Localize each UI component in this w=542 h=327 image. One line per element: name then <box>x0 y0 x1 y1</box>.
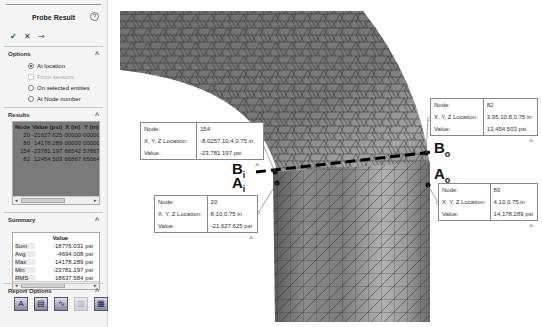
radio-selected-icon <box>28 63 34 69</box>
graphics-viewport[interactable]: Bi Ai Bo Ao Node:154 X, Y, Z Location:-8… <box>108 0 542 327</box>
plot-icon[interactable]: ∿ <box>54 297 68 311</box>
report-options-toolbar: A ▤ ∿ ▥ ▦ <box>14 297 108 311</box>
column-header[interactable]: X (in) <box>64 124 81 130</box>
table-row[interactable]: 80 14178.289 00000 00000 <box>15 140 100 146</box>
save-to-file-icon[interactable]: ▤ <box>34 297 48 311</box>
ok-check-icon[interactable]: ✔ <box>10 32 17 41</box>
table-row: Min -23781.197 psi <box>15 267 97 273</box>
callout-location: 3.95,10.8,0.75 in <box>483 111 537 123</box>
table-row[interactable]: 82 12454.503 66867 65064 <box>15 156 100 162</box>
callout-node: 154 <box>197 123 264 135</box>
cell-x: 00000 <box>64 140 81 146</box>
report-options-section-header[interactable]: Report Options ^ <box>8 288 101 294</box>
cell-y: 65064 <box>83 156 100 162</box>
cell-value: -23781.197 <box>32 148 62 154</box>
table-row[interactable]: 20 -21627.625 00000 00000 <box>15 132 100 138</box>
collapse-caret-icon[interactable]: ^ <box>249 234 253 243</box>
divider <box>4 107 103 108</box>
summary-label: Max <box>15 259 35 265</box>
probe-callout-node-82[interactable]: Node:82 X, Y, Z Location:3.95,10.8,0.75 … <box>430 98 538 136</box>
point-label-a-inner: Ai <box>232 174 245 194</box>
options-section-header[interactable]: Options ^ <box>8 51 101 57</box>
callout-node: 20 <box>207 196 257 208</box>
callout-key: Node: <box>431 99 483 111</box>
column-header: Value <box>37 235 83 241</box>
cell-x: 66542 <box>64 148 81 154</box>
callout-key: X, Y, Z Location: <box>141 135 197 147</box>
summary-unit: psi <box>85 259 97 265</box>
report-options-header-label: Report Options <box>8 288 52 294</box>
column-header[interactable]: Node <box>15 124 30 130</box>
results-horizontal-scrollbar[interactable]: ◂ ▸ <box>13 196 99 204</box>
panel-top-divider <box>6 4 101 5</box>
results-table[interactable]: Node Value (psi) X (in) Y (in) 20 -21627… <box>12 121 100 205</box>
cell-node: 80 <box>15 140 30 146</box>
summary-table[interactable]: Value Sum -18776.031 psi Avg -4694.008 p… <box>12 232 100 290</box>
results-section-header[interactable]: Results ^ <box>8 112 101 118</box>
callout-location: -8.0257,10.4,0.75 in <box>197 135 264 147</box>
point-label-a-outer: Ao <box>434 165 450 185</box>
save-as-sensor-icon[interactable]: A <box>14 297 28 311</box>
results-header-label: Results <box>8 112 30 118</box>
point-label-b-outer: Bo <box>434 139 450 159</box>
callout-value: 14,178.289 psi <box>490 208 537 220</box>
probe-result-panel: Probe Result ? ✔ ✕ ⊸ Options ^ At locati… <box>0 0 108 327</box>
callout-node: 82 <box>483 99 537 111</box>
radio-at-location[interactable]: At location <box>28 63 65 69</box>
callout-key: Node: <box>155 196 207 208</box>
callout-key: Node: <box>439 184 490 196</box>
cell-node: 20 <box>15 132 30 138</box>
summary-unit: psi <box>85 267 97 273</box>
probe-callout-node-20[interactable]: Node:20 X, Y, Z Location:8,10,0.75 in Va… <box>154 195 258 233</box>
checkbox-disabled-icon <box>28 74 34 80</box>
probe-callout-node-154[interactable]: Node:154 X, Y, Z Location:-8.0257,10.4,0… <box>140 122 264 160</box>
callout-value: -23,781.197 psi <box>197 147 264 159</box>
radio-label: From sensors <box>37 74 74 80</box>
radio-label: On selected entities <box>37 85 90 91</box>
callout-value: -21,627.625 psi <box>207 220 257 232</box>
cell-x: 66867 <box>64 156 81 162</box>
fea-mesh-model <box>108 0 542 327</box>
summary-value: -23781.197 <box>37 267 83 273</box>
radio-on-selected-entities[interactable]: On selected entities <box>28 85 90 91</box>
table-row[interactable]: 154 -23781.197 66542 57867 <box>15 148 100 154</box>
callout-key: Value: <box>431 123 483 135</box>
collapse-caret-icon[interactable]: ^ <box>529 137 533 146</box>
summary-value: 14178.289 <box>37 259 83 265</box>
cell-value: 14178.289 <box>32 140 62 146</box>
pin-icon[interactable]: ⊸ <box>38 32 45 41</box>
column-header[interactable]: Y (in) <box>83 124 100 130</box>
radio-at-node-number[interactable]: At Node number <box>28 96 81 102</box>
collapse-caret-icon[interactable]: ^ <box>255 161 259 170</box>
scroll-left-arrow-icon[interactable]: ◂ <box>15 197 18 203</box>
callout-location: 8,10,0.75 in <box>207 208 257 220</box>
scroll-thumb[interactable] <box>21 198 65 203</box>
summary-label: Avg <box>15 251 35 257</box>
callout-node: 80 <box>490 184 537 196</box>
callout-location: 4,10,0.75 in <box>490 196 537 208</box>
divider <box>4 46 103 47</box>
question-circle-icon[interactable]: ? <box>90 12 99 21</box>
collapse-caret-icon[interactable]: ^ <box>95 112 99 119</box>
summary-section-header[interactable]: Summary ^ <box>8 217 101 223</box>
probe-callout-node-80[interactable]: Node:80 X, Y, Z Location:4,10,0.75 in Va… <box>438 183 538 221</box>
table-row: Max 14178.289 psi <box>15 259 97 265</box>
collapse-caret-icon[interactable]: ^ <box>95 51 99 58</box>
cancel-x-icon[interactable]: ✕ <box>24 32 31 41</box>
summary-unit: psi <box>85 243 97 249</box>
callout-key: X, Y, Z Location: <box>155 208 207 220</box>
cell-y: 57867 <box>83 148 100 154</box>
collapse-caret-icon[interactable]: ^ <box>95 217 99 224</box>
column-header[interactable]: Value (psi) <box>32 124 62 130</box>
options-header-label: Options <box>8 51 31 57</box>
collapse-caret-icon[interactable]: ^ <box>529 222 533 231</box>
scroll-right-arrow-icon[interactable]: ▸ <box>94 197 97 203</box>
cell-y: 00000 <box>83 140 100 146</box>
cell-y: 00000 <box>83 132 100 138</box>
collapse-caret-icon[interactable]: ^ <box>95 288 99 295</box>
callout-key: X, Y, Z Location: <box>431 111 483 123</box>
cell-x: 00000 <box>64 132 81 138</box>
summary-label: Sum <box>15 243 35 249</box>
report-icon[interactable]: ▦ <box>94 297 108 311</box>
plot-disabled-icon: ▥ <box>74 297 88 311</box>
